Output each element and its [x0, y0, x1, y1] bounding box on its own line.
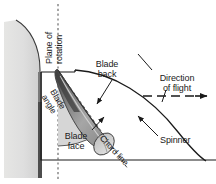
- label-direction-of-flight: Direction of flight: [146, 73, 208, 93]
- label-blade-back: Blade back: [86, 59, 128, 79]
- propeller-blade-angle-diagram: Plane of rotation Blade back Direction o…: [0, 0, 216, 184]
- label-spinner: Spinner: [160, 135, 190, 145]
- label-plane-of-rotation: Plane of rotation: [44, 32, 64, 64]
- label-blade-face: Blade face: [58, 131, 94, 151]
- engine-cowling: [4, 20, 42, 178]
